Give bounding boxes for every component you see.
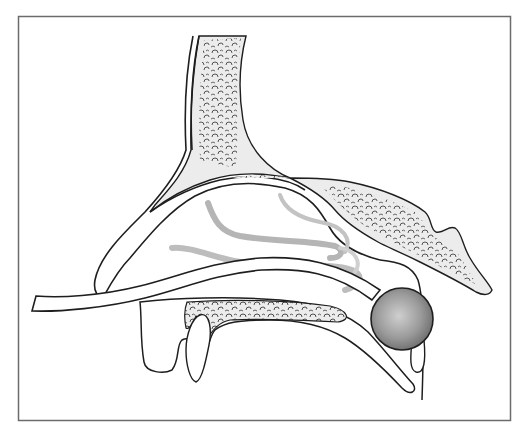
anatomy-illustration [0, 0, 528, 438]
diagram-canvas: Sagittal cross-section of nasal cavity w… [0, 0, 528, 438]
frame-border [19, 17, 511, 421]
sphere [371, 288, 433, 350]
